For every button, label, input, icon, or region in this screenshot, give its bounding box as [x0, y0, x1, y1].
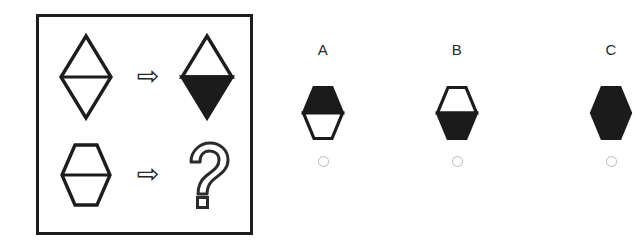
answer-option-c[interactable]: C [566, 40, 637, 167]
answer-option-a[interactable]: A [278, 40, 368, 167]
analogy-row-1: ⇨ [39, 29, 250, 124]
rightwards-arrow-icon: ⇨ [137, 62, 160, 89]
option-b-label: B [412, 40, 502, 60]
row-2-operator: ⇨ [123, 127, 173, 222]
option-b-radio[interactable] [452, 156, 463, 167]
hexagon-solid-icon [589, 85, 633, 141]
option-c-label: C [566, 40, 637, 60]
option-a-figure [278, 82, 368, 144]
analogy-panel: ⇨ ⇨ [36, 14, 253, 235]
hexagon-bottom-filled-icon [435, 85, 479, 141]
diamond-bottom-filled-icon [179, 33, 235, 121]
analogy-row-2: ⇨ [39, 127, 250, 222]
option-a-radio[interactable] [318, 156, 329, 167]
option-c-figure [566, 82, 637, 144]
row-1-source-figure [47, 29, 125, 124]
option-b-figure [412, 82, 502, 144]
diamond-outline-icon [58, 33, 114, 121]
question-mark-icon [181, 140, 233, 210]
row-2-target-figure [167, 127, 247, 222]
option-c-radio[interactable] [606, 156, 617, 167]
row-2-source-figure [47, 127, 125, 222]
row-1-target-figure [167, 29, 247, 124]
hexagon-top-filled-icon [301, 85, 345, 141]
rightwards-arrow-icon: ⇨ [137, 160, 160, 187]
option-a-label: A [278, 40, 368, 60]
hexagon-outline-icon [59, 142, 113, 208]
row-1-operator: ⇨ [123, 29, 173, 124]
answer-option-b[interactable]: B [412, 40, 502, 167]
